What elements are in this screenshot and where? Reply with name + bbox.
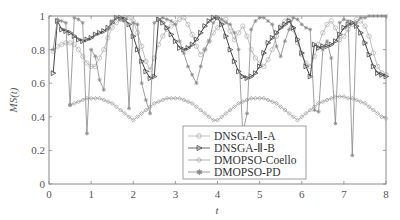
star-marker-icon	[152, 21, 156, 25]
y-tick-label: 0.4	[31, 111, 45, 123]
star-marker-icon	[178, 39, 182, 43]
star-marker-icon	[127, 106, 131, 110]
star-marker-icon	[283, 39, 287, 43]
star-marker-icon	[237, 48, 241, 52]
star-marker-icon	[274, 44, 278, 48]
star-marker-icon: ✱	[196, 168, 203, 177]
x-tick-label: 0	[46, 188, 52, 200]
star-marker-icon	[144, 98, 148, 102]
star-marker-icon	[182, 51, 186, 55]
star-marker-icon	[140, 81, 144, 85]
star-marker-icon	[346, 19, 350, 23]
star-marker-icon	[308, 27, 312, 31]
x-tick-label: 5	[257, 188, 263, 200]
star-marker-icon	[287, 27, 291, 31]
x-tick-label: 4	[215, 188, 221, 200]
star-marker-icon	[245, 111, 249, 115]
series-dmopso-coello	[68, 95, 388, 123]
x-axis-label: t	[215, 204, 219, 216]
star-marker-icon	[157, 17, 161, 21]
star-marker-icon	[203, 48, 207, 52]
star-marker-icon	[338, 21, 342, 25]
star-marker-icon	[119, 17, 123, 21]
star-marker-icon	[55, 17, 59, 21]
legend-label: DMOPSO-Coello	[214, 154, 297, 166]
star-marker-icon	[211, 21, 215, 25]
star-marker-icon	[190, 73, 194, 77]
star-marker-icon	[317, 110, 321, 114]
x-tick-label: 8	[383, 188, 389, 200]
y-tick-label: 0	[40, 178, 46, 190]
star-marker-icon	[228, 22, 232, 26]
star-marker-icon	[253, 19, 257, 23]
star-marker-icon	[102, 88, 106, 92]
star-marker-icon	[325, 39, 329, 43]
x-tick-label: 7	[341, 188, 347, 200]
star-marker-icon	[304, 26, 308, 30]
x-tick-label: 3	[173, 188, 179, 200]
legend-label: DNSGA-Ⅱ-A	[214, 130, 276, 142]
star-marker-icon	[355, 21, 359, 25]
star-marker-icon	[329, 56, 333, 60]
legend: DNSGA-Ⅱ-A DNSGA-Ⅱ-B DMOPSO-Coello ✱ DMOP…	[183, 126, 306, 179]
star-marker-icon	[232, 31, 236, 35]
y-tick-label: 0.6	[31, 77, 45, 89]
star-marker-icon	[350, 153, 354, 157]
star-marker-icon	[207, 39, 211, 43]
star-marker-icon	[68, 103, 72, 107]
x-tick-label: 1	[88, 188, 94, 200]
star-marker-icon	[165, 17, 169, 21]
star-marker-icon	[199, 64, 203, 68]
y-tick-label: 0.2	[31, 144, 45, 156]
star-marker-icon	[93, 54, 97, 58]
x-tick-label: 2	[131, 188, 137, 200]
star-marker-icon	[300, 22, 304, 26]
star-marker-icon	[148, 111, 152, 115]
star-marker-icon	[186, 64, 190, 68]
y-axis-label: MS(t)	[7, 87, 20, 113]
legend-label: DNSGA-Ⅱ-B	[214, 142, 275, 154]
star-marker-icon	[194, 81, 198, 85]
star-marker-icon	[64, 21, 68, 25]
star-marker-icon	[224, 21, 228, 25]
star-marker-icon	[135, 22, 139, 26]
star-marker-icon	[123, 19, 127, 23]
star-marker-icon	[279, 54, 283, 58]
star-marker-icon	[106, 27, 110, 31]
star-marker-icon	[169, 19, 173, 23]
legend-label: DMOPSO-PD	[214, 166, 280, 178]
star-marker-icon	[312, 108, 316, 112]
legend-item-dmopso-pd: ✱ DMOPSO-PD	[188, 166, 280, 178]
star-marker-icon	[76, 17, 80, 21]
star-marker-icon	[173, 22, 177, 26]
star-marker-icon	[220, 17, 224, 21]
star-marker-icon	[296, 17, 300, 21]
star-marker-icon	[110, 19, 114, 23]
star-marker-icon	[333, 122, 337, 126]
chart-canvas: 012345678 00.20.40.60.81 t MS(t) DNSGA-Ⅱ…	[0, 0, 400, 220]
star-marker-icon	[89, 48, 93, 52]
star-marker-icon	[131, 21, 135, 25]
star-marker-icon	[85, 132, 89, 136]
star-marker-icon	[266, 19, 270, 23]
y-tick-label: 1	[40, 10, 46, 22]
star-marker-icon	[98, 78, 102, 82]
y-tick-label: 0.8	[31, 44, 45, 56]
star-marker-icon	[270, 22, 274, 26]
x-tick-label: 6	[299, 188, 305, 200]
star-marker-icon	[60, 19, 64, 23]
star-marker-icon	[81, 21, 85, 25]
star-marker-icon	[249, 27, 253, 31]
star-marker-icon	[321, 48, 325, 52]
